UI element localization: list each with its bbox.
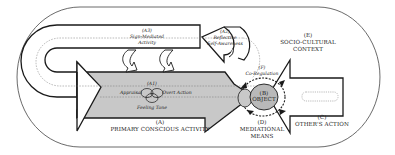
object-label: OBJECT xyxy=(252,96,276,103)
primary-activity-label: PRIMARY CONSCIOUS ACTIVITY xyxy=(111,126,210,132)
reflective-line2: Self-Awareness xyxy=(207,41,243,46)
sign-mediated-code: (A3) xyxy=(142,28,152,33)
core-code: (A1) xyxy=(147,81,157,86)
mediational-line1: MEDIATIONAL xyxy=(240,126,285,132)
curl-arrow-1 xyxy=(123,50,137,72)
primary-activity-code: (A) xyxy=(156,119,165,125)
context-code: (E) xyxy=(304,32,313,38)
context-label-line2: CONTEXT xyxy=(293,46,323,52)
co-regulation-label: Co-Regulation xyxy=(245,71,278,77)
co-regulation-code: (F) xyxy=(259,65,266,70)
others-action-label: OTHER'S ACTION xyxy=(295,121,349,127)
curl-arrow-2 xyxy=(160,50,174,72)
core-appraisal: Appraisal xyxy=(119,90,143,95)
mediational-code: (D) xyxy=(257,119,266,125)
core-overt-action: Overt Action xyxy=(162,90,192,95)
others-action-code: (C) xyxy=(318,114,327,120)
context-label-line1: SOCIO-CULTURAL xyxy=(280,39,336,45)
activity-diagram: (A3) Sign-Mediated Activity (A2) Reflect… xyxy=(0,0,395,155)
mediational-line2: MEANS xyxy=(250,133,273,139)
reflective-line1: Reflective xyxy=(212,35,236,40)
reflective-code: (A2) xyxy=(220,29,230,34)
